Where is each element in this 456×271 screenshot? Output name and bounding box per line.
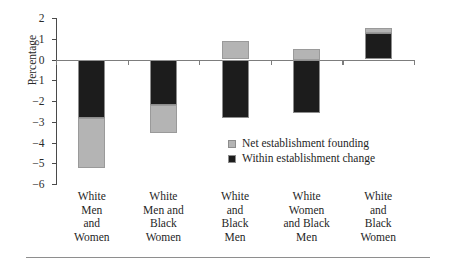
legend-label: Within establishment change xyxy=(242,152,375,165)
bottom-divider xyxy=(26,257,430,258)
bar-segment-within-establishment-change xyxy=(150,60,177,106)
y-tick: −6 xyxy=(52,184,57,185)
x-tick xyxy=(56,60,57,65)
category-label-line: and xyxy=(199,204,271,218)
category-label-line: Men xyxy=(56,204,128,218)
category-label-line: White xyxy=(56,190,128,204)
legend-item-net-establishment-founding: Net establishment founding xyxy=(228,136,375,151)
legend-swatch-light-icon xyxy=(228,140,236,148)
category-label-line: White xyxy=(128,190,200,204)
bar-chart: Percentage 210−1−2−3−4−5−6 WhiteMenandWo… xyxy=(0,0,456,271)
x-axis-category-label: WhiteMen andBlackWomen xyxy=(128,190,200,244)
category-label-line: White xyxy=(342,190,414,204)
category-label-line: White xyxy=(271,190,343,204)
category-label-line: Men and xyxy=(128,204,200,218)
y-tick-label: 1 xyxy=(15,34,45,44)
category-label-line: Women xyxy=(342,231,414,245)
bar-segment-net-establishment-founding xyxy=(150,105,177,133)
category-label-line: Women xyxy=(56,231,128,245)
y-tick: −5 xyxy=(52,163,57,164)
x-tick xyxy=(128,60,129,65)
x-axis-category-label: WhiteMenandWomen xyxy=(56,190,128,244)
y-tick: 1 xyxy=(52,39,57,40)
category-label-line: Black xyxy=(342,217,414,231)
x-axis-category-label: WhiteandBlackMen xyxy=(199,190,271,244)
category-label-line: and xyxy=(342,204,414,218)
bar xyxy=(78,18,105,184)
chart-legend: Net establishment founding Within establ… xyxy=(228,136,375,166)
x-axis-category-label: WhiteandBlackWomen xyxy=(342,190,414,244)
x-tick xyxy=(342,60,343,65)
category-label-line: Men xyxy=(271,231,343,245)
x-tick xyxy=(271,60,272,65)
category-label-line: Black xyxy=(128,217,200,231)
category-label-line: Black xyxy=(199,217,271,231)
x-axis-category-label: WhiteWomenand BlackMen xyxy=(271,190,343,244)
category-label-line: Women xyxy=(128,231,200,245)
bar-segment-net-establishment-founding xyxy=(222,41,249,60)
x-tick xyxy=(414,60,415,65)
bar-segment-within-establishment-change xyxy=(78,60,105,118)
y-tick-label: 0 xyxy=(15,55,45,65)
category-label-line: and Black xyxy=(271,217,343,231)
y-tick: −2 xyxy=(52,101,57,102)
bar-segment-net-establishment-founding xyxy=(293,49,320,59)
x-tick xyxy=(199,60,200,65)
bar-segment-net-establishment-founding xyxy=(78,118,105,169)
bar-segment-within-establishment-change xyxy=(222,60,249,118)
y-tick-label: −2 xyxy=(15,96,45,106)
bar-segment-within-establishment-change xyxy=(293,60,320,114)
y-tick: −4 xyxy=(52,143,57,144)
legend-item-within-establishment-change: Within establishment change xyxy=(228,151,375,166)
y-tick-label: −3 xyxy=(15,117,45,127)
category-label-line: White xyxy=(199,190,271,204)
legend-swatch-dark-icon xyxy=(228,155,236,163)
category-label-line: and xyxy=(56,217,128,231)
bar xyxy=(150,18,177,184)
y-tick: −3 xyxy=(52,122,57,123)
category-label-line: Men xyxy=(199,231,271,245)
y-tick-label: −5 xyxy=(15,158,45,168)
y-tick-label: 2 xyxy=(15,13,45,23)
y-tick-label: −1 xyxy=(15,75,45,85)
legend-label: Net establishment founding xyxy=(242,137,369,150)
bar-segment-within-establishment-change xyxy=(365,33,392,60)
y-tick: −1 xyxy=(52,80,57,81)
y-tick-label: −6 xyxy=(15,179,45,189)
category-label-line: Women xyxy=(271,204,343,218)
y-tick-label: −4 xyxy=(15,138,45,148)
y-tick: 2 xyxy=(52,18,57,19)
